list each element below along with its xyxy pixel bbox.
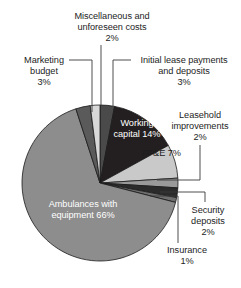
slice-callout-marketing-budget-line1: Marketing <box>24 55 64 65</box>
slice-callout-leasehold-line2: improvements <box>171 121 228 131</box>
slice-label-ffe-percent: 7% <box>168 148 181 158</box>
pie-chart-figure: Miscellaneous and unforeseen costs 2% Ma… <box>0 0 241 288</box>
slice-label-working-capital-percent: 14% <box>142 129 160 139</box>
slice-label-working-capital-line1: Working <box>120 118 153 128</box>
slice-callout-initial-lease-percent: 3% <box>128 77 240 88</box>
slice-callout-security-deposits: Security deposits 2% <box>176 205 240 239</box>
slice-callout-miscellaneous-percent: 2% <box>52 33 172 44</box>
slice-label-working-capital-line2: capital <box>114 129 140 139</box>
slice-label-ambulances-line2: equipment <box>51 210 93 220</box>
slice-callout-leasehold-line1: Leasehold <box>179 110 221 120</box>
slice-label-working-capital: Working capital 14% <box>109 118 165 140</box>
slice-callout-initial-lease-line1: Initial lease payments <box>140 55 227 65</box>
slice-callout-marketing-budget-line2: budget <box>30 66 58 76</box>
slice-label-ffe-line1: FF&E <box>142 148 165 158</box>
slice-callout-insurance-percent: 1% <box>150 256 224 267</box>
slice-label-ffe: FF&E 7% <box>142 148 178 159</box>
slice-callout-miscellaneous-line1: Miscellaneous and <box>74 11 149 21</box>
slice-label-ambulances-percent: 66% <box>96 210 114 220</box>
slice-label-ambulances: Ambulances with equipment 66% <box>33 199 133 221</box>
slice-callout-miscellaneous: Miscellaneous and unforeseen costs 2% <box>52 11 172 45</box>
slice-callout-security-deposits-percent: 2% <box>176 227 240 238</box>
slice-callout-initial-lease: Initial lease payments and deposits 3% <box>128 55 240 89</box>
slice-callout-security-deposits-line1: Security <box>192 205 225 215</box>
slice-callout-leasehold: Leasehold improvements 2% <box>160 110 240 144</box>
slice-callout-marketing-budget: Marketing budget 3% <box>8 55 80 89</box>
slice-callout-initial-lease-line2: and deposits <box>158 66 210 76</box>
slice-callout-marketing-budget-percent: 3% <box>8 77 80 88</box>
slice-callout-leasehold-percent: 2% <box>160 132 240 143</box>
slice-callout-security-deposits-line2: deposits <box>191 216 225 226</box>
slice-callout-miscellaneous-line2: unforeseen costs <box>77 22 146 32</box>
slice-callout-insurance-line1: Insurance <box>167 245 207 255</box>
slice-callout-insurance: Insurance 1% <box>150 245 224 267</box>
slice-label-ambulances-line1: Ambulances with <box>49 199 118 209</box>
